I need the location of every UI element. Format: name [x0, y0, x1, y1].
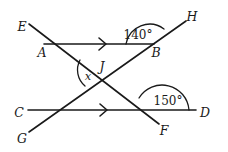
- point-label-b: B: [150, 45, 160, 60]
- angle-label-140: 140°: [124, 28, 153, 42]
- transversal-gh: [29, 21, 186, 132]
- point-label-c: C: [14, 105, 24, 120]
- geometry-diagram-container: E A H B J C D G F 140° 150° x: [0, 0, 228, 152]
- angle-label-150: 150°: [154, 94, 183, 108]
- geometry-canvas: E A H B J C D G F 140° 150° x: [0, 0, 228, 152]
- point-label-g: G: [17, 131, 27, 146]
- angle-label-x: x: [85, 69, 92, 83]
- point-label-h: H: [186, 9, 199, 24]
- point-label-j: J: [96, 59, 105, 74]
- point-label-e: E: [16, 19, 26, 34]
- point-label-a: A: [36, 45, 46, 60]
- point-label-d: D: [199, 105, 210, 120]
- point-label-f: F: [159, 123, 170, 138]
